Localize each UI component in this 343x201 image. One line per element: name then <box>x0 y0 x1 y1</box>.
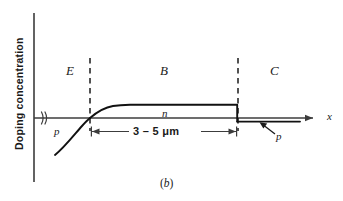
collector-p-label: p <box>276 131 282 142</box>
region-label-emitter: E <box>66 64 74 77</box>
base-width-right-arrowhead <box>229 129 237 135</box>
doping-profile-figure: Doping concentration E B C p n p x 3 – 5… <box>0 0 343 201</box>
region-label-base: B <box>160 64 168 77</box>
y-axis-title: Doping concentration <box>14 38 25 151</box>
x-axis-label: x <box>327 111 332 122</box>
emitter-p-doping-curve <box>55 118 90 155</box>
figure-canvas <box>0 0 343 201</box>
base-n-label: n <box>162 108 168 119</box>
region-label-collector: C <box>270 64 279 77</box>
caption-suffix: ) <box>170 177 174 189</box>
figure-caption: (b) <box>160 178 173 190</box>
base-width-left-arrowhead <box>92 129 100 135</box>
base-width-label: 3 – 5 μm <box>133 126 179 137</box>
position-axis-arrowhead <box>305 115 313 121</box>
emitter-p-label: p <box>54 126 60 137</box>
